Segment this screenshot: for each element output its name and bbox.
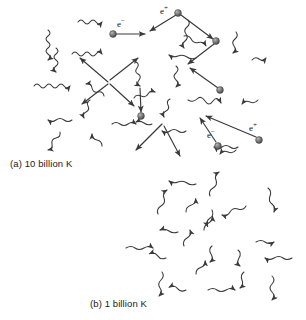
panel-b-caption: (b) 1 billion K xyxy=(90,298,147,309)
electron-label-1: e− xyxy=(117,17,125,29)
positron-label-1: e+ xyxy=(160,4,168,16)
electron-label-2: e− xyxy=(207,128,215,140)
panel-a-photons xyxy=(34,20,266,154)
panel-a-caption: (a) 10 billion K xyxy=(10,158,72,169)
panel-a-particle-spheres xyxy=(110,10,263,150)
physics-figure: (a) 10 billion K (b) 1 billion K e− e+ e… xyxy=(0,0,306,320)
positron-label-2: e+ xyxy=(249,121,257,133)
panel-a-particle-tracks xyxy=(80,15,256,156)
panel-b-photons xyxy=(126,172,292,300)
